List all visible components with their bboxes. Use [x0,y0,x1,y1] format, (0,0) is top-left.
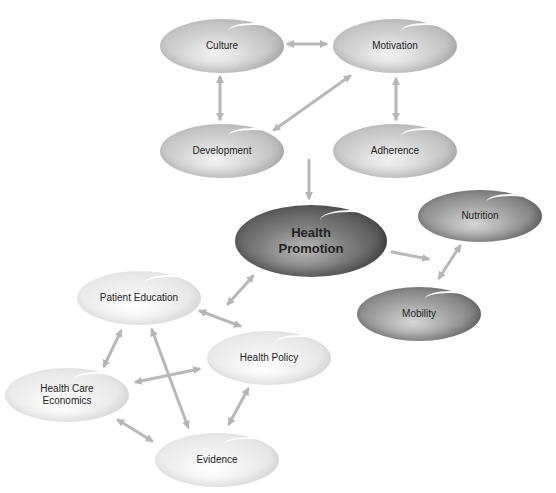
node-mobility-label: Mobility [402,308,436,320]
node-adherence: Adherence [333,124,457,178]
node-health-promotion-label: Health Promotion [279,225,344,256]
arrow-economics-evidence [118,420,152,441]
arrow-health-promotion-outcomes [392,252,428,259]
node-development: Development [160,124,284,178]
node-nutrition: Nutrition [418,190,542,242]
node-nutrition-label: Nutrition [461,210,498,222]
node-evidence-label: Evidence [196,454,237,466]
node-development-label: Development [193,145,252,157]
label-line-1: Health [291,225,331,240]
node-motivation: Motivation [333,19,457,73]
node-patient-education: Patient Education [77,271,201,325]
node-health-policy-label: Health Policy [240,352,298,364]
node-culture-label: Culture [206,40,238,52]
node-health-policy: Health Policy [207,331,331,385]
node-culture: Culture [160,19,284,73]
arrow-nutrition-mobility [439,246,460,278]
arrow-development-motivation [274,76,350,130]
health-promotion-diagram: Culture Motivation Development Adherence… [0,0,556,493]
node-evidence: Evidence [155,433,279,487]
arrow-patient-education-health-policy [200,311,240,326]
node-health-care-economics-label: Health Care Economics [40,383,93,407]
node-health-care-economics: Health Care Economics [5,368,129,422]
node-motivation-label: Motivation [372,40,418,52]
label-line-1: Health Care [40,383,93,394]
arrow-health-policy-evidence [229,389,248,424]
node-patient-education-label: Patient Education [100,292,178,304]
node-adherence-label: Adherence [371,145,419,157]
label-line-2: Economics [43,395,92,406]
arrow-patient-education-economics [104,331,121,366]
node-health-promotion: Health Promotion [235,205,387,277]
node-mobility: Mobility [357,287,481,341]
arrow-health-promotion-patient-education [228,276,253,304]
label-line-2: Promotion [279,241,344,256]
